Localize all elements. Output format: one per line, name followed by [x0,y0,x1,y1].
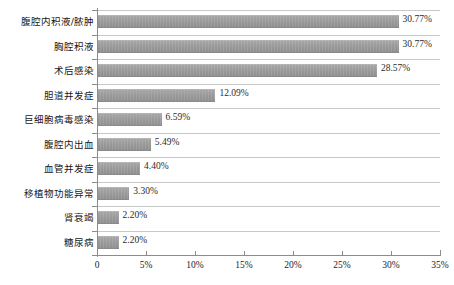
x-axis-tick-label: 15% [235,258,252,272]
bar-value-label: 4.40% [144,159,169,173]
bar [97,40,399,53]
bar-row: 3.30% [97,182,440,207]
category-label: 腹腔内积液/脓肿 [2,15,94,29]
bar-value-label: 12.09% [219,86,248,100]
bar-row: 30.77% [97,35,440,60]
bar-row: 28.57% [97,59,440,84]
x-axis-tick-label: 25% [333,258,350,272]
bar [97,64,377,77]
bar-row: 12.09% [97,84,440,109]
category-label: 胸腔积液 [2,40,94,54]
x-axis-tick [97,251,98,256]
category-label: 血管并发症 [2,162,94,176]
bar [97,187,129,200]
x-axis-tick [342,251,343,256]
plot-area: 30.77%30.77%28.57%12.09%6.59%5.49%4.40%3… [97,10,440,255]
x-axis-tick-label: 20% [284,258,301,272]
category-label: 术后感染 [2,64,94,78]
x-axis-tick-label: 0 [95,258,100,272]
bar-value-label: 30.77% [403,12,432,26]
bar-row: 30.77% [97,10,440,35]
category-label: 腹腔内出血 [2,138,94,152]
bar-value-label: 6.59% [166,110,191,124]
bar-row: 4.40% [97,157,440,182]
x-axis-tick-label: 10% [186,258,203,272]
category-label: 胆道并发症 [2,89,94,103]
x-axis-tick [195,251,196,256]
x-axis-tick-label: 30% [382,258,399,272]
bar-value-label: 2.20% [123,208,148,222]
bar-row: 2.20% [97,206,440,231]
bar-value-label: 3.30% [133,184,158,198]
y-axis-line [97,8,98,257]
bar-value-label: 2.20% [123,233,148,247]
bar [97,15,399,28]
x-axis-tick [293,251,294,256]
bar-value-label: 28.57% [381,61,410,75]
bar-row: 2.20% [97,231,440,256]
bar-row: 5.49% [97,133,440,158]
category-label: 移植物功能异常 [2,187,94,201]
bar-chart: 30.77%30.77%28.57%12.09%6.59%5.49%4.40%3… [0,0,454,285]
bar [97,211,119,224]
bar [97,89,215,102]
category-label: 糖尿病 [2,236,94,250]
x-axis-tick-label: 35% [431,258,448,272]
x-axis-tick [146,251,147,256]
category-labels: 腹腔内积液/脓肿胸腔积液术后感染胆道并发症巨细胞病毒感染腹腔内出血血管并发症移植… [0,10,94,255]
x-axis-tick-label: 5% [140,258,153,272]
bar-row: 6.59% [97,108,440,133]
x-axis-tick [244,251,245,256]
x-axis-tick [391,251,392,256]
category-label: 巨细胞病毒感染 [2,113,94,127]
x-axis-line [97,255,441,256]
bar [97,162,140,175]
bar [97,236,119,249]
bar [97,138,151,151]
category-label: 肾衰竭 [2,211,94,225]
bar-value-label: 5.49% [155,135,180,149]
x-axis-tick [440,251,441,256]
bar [97,113,162,126]
bar-value-label: 30.77% [403,37,432,51]
